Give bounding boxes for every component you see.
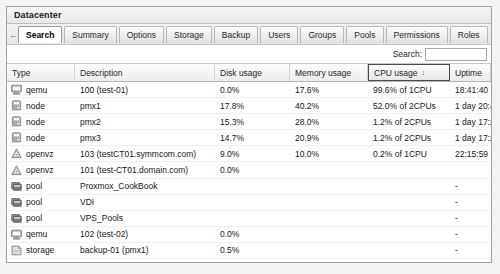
cell-desc: VDI <box>75 197 215 207</box>
column-header-mem[interactable]: Memory usage <box>290 64 368 81</box>
cell-disk: 15.3% <box>215 117 290 127</box>
datacenter-panel: Datacenter ← SearchSummaryOptionsStorage… <box>6 6 492 263</box>
pool-icon <box>11 197 22 208</box>
container-icon <box>11 165 22 176</box>
page-title: Datacenter <box>14 10 62 20</box>
tab-options[interactable]: Options <box>119 26 164 43</box>
cell-mem: 20.9% <box>290 133 368 143</box>
tab-groups[interactable]: Groups <box>300 26 344 43</box>
tab-label: Search <box>26 30 54 40</box>
cell-type-label: qemu <box>26 85 47 95</box>
cell-type-label: qemu <box>26 229 47 239</box>
panel-titlebar: Datacenter <box>7 7 491 24</box>
cell-disk: 9.0% <box>215 149 290 159</box>
table-row[interactable]: poolVDI- <box>7 195 491 211</box>
tab-label: Storage <box>174 30 204 40</box>
cell-desc: 101 (test-CT01.domain.com) <box>75 165 215 175</box>
cell-desc: Proxmox_CookBook <box>75 181 215 191</box>
sort-descending-icon: ↓ <box>421 69 425 76</box>
cell-disk: 0.0% <box>215 229 290 239</box>
column-header-cpu[interactable]: CPU usage↓ <box>368 64 450 81</box>
table-row[interactable]: poolProxmox_CookBook- <box>7 179 491 195</box>
search-bar: Search: <box>7 45 491 63</box>
cell-type-label: node <box>26 117 45 127</box>
cell-uptime: - <box>450 213 491 223</box>
pool-icon <box>11 213 22 224</box>
cell-desc: 100 (test-01) <box>75 85 215 95</box>
cell-type-label: pool <box>26 197 42 207</box>
cell-type: node <box>7 100 75 111</box>
grid-body: qemu100 (test-01)0.0%17.6%99.6% of 1CPU1… <box>7 82 491 262</box>
column-header-desc[interactable]: Description <box>75 64 215 81</box>
cell-cpu: 0.2% of 1CPU <box>368 149 450 159</box>
cell-desc: pmx1 <box>75 101 215 111</box>
pool-icon <box>11 181 22 192</box>
cell-type: storage <box>7 245 75 256</box>
cell-type-label: openvz <box>26 165 53 175</box>
cell-mem: 17.6% <box>290 85 368 95</box>
server-icon <box>11 132 22 143</box>
cell-uptime: - <box>450 197 491 207</box>
cell-mem: 10.0% <box>290 149 368 159</box>
table-row[interactable]: nodepmx117.8%40.2%52.0% of 2CPUs1 day 20… <box>7 98 491 114</box>
cell-type-label: node <box>26 101 45 111</box>
tab-search[interactable]: Search <box>18 26 62 43</box>
cell-type-label: openvz <box>26 149 53 159</box>
search-label: Search: <box>393 49 422 59</box>
tab-label: Options <box>127 30 156 40</box>
table-row[interactable]: qemu102 (test-02)0.0%- <box>7 227 491 243</box>
server-icon <box>11 116 22 127</box>
cell-desc: pmx2 <box>75 117 215 127</box>
column-header-label: Uptime <box>455 68 482 78</box>
tab-roles[interactable]: Roles <box>450 26 488 43</box>
cell-cpu: 1.2% of 2CPUs <box>368 133 450 143</box>
tab-label: Pools <box>354 30 375 40</box>
cell-disk: 14.7% <box>215 133 290 143</box>
cell-uptime: 1 day 20:41:20 <box>450 101 491 111</box>
table-row[interactable]: nodepmx314.7%20.9%1.2% of 2CPUs1 day 17:… <box>7 130 491 146</box>
cell-desc: pmx3 <box>75 133 215 143</box>
cell-disk: 0.5% <box>215 245 290 255</box>
tab-label: Summary <box>72 30 108 40</box>
monitor-icon <box>11 84 22 95</box>
table-row[interactable]: qemu100 (test-01)0.0%17.6%99.6% of 1CPU1… <box>7 82 491 98</box>
cell-type-label: storage <box>26 245 54 255</box>
table-row[interactable]: storagebackup-01 (pmx1)0.5%- <box>7 243 491 259</box>
arrow-left-icon[interactable]: ← <box>9 26 18 44</box>
table-row[interactable]: openvz101 (test-CT01.domain.com)0.0% <box>7 162 491 178</box>
tab-pools[interactable]: Pools <box>346 26 383 43</box>
tab-users[interactable]: Users <box>260 26 298 43</box>
column-header-disk[interactable]: Disk usage <box>215 64 290 81</box>
cell-type-label: pool <box>26 213 42 223</box>
cell-mem: 28.0% <box>290 117 368 127</box>
cell-type: openvz <box>7 148 75 159</box>
tab-permissions[interactable]: Permissions <box>386 26 448 43</box>
cell-desc: backup-01 (pmx1) <box>75 245 215 255</box>
table-row[interactable]: poolVPS_Pools- <box>7 211 491 227</box>
page-background: Datacenter ← SearchSummaryOptionsStorage… <box>0 0 500 274</box>
tab-backup[interactable]: Backup <box>214 26 258 43</box>
tab-storage[interactable]: Storage <box>166 26 212 43</box>
cell-type: node <box>7 116 75 127</box>
cell-uptime: 1 day 17:27:52 <box>450 117 491 127</box>
cell-cpu: 52.0% of 2CPUs <box>368 101 450 111</box>
column-header-uptime[interactable]: Uptime <box>450 64 491 81</box>
tab-bar: ← SearchSummaryOptionsStorageBackupUsers… <box>7 24 491 45</box>
cell-uptime: 22:15:59 <box>450 149 491 159</box>
tab-label: Roles <box>458 30 480 40</box>
cell-type-label: node <box>26 133 45 143</box>
cell-desc: 103 (testCT01.symmcom.com) <box>75 149 215 159</box>
column-header-type[interactable]: Type <box>7 64 75 81</box>
tab-summary[interactable]: Summary <box>64 26 116 43</box>
table-row[interactable]: nodepmx215.3%28.0%1.2% of 2CPUs1 day 17:… <box>7 114 491 130</box>
results-grid: TypeDescriptionDisk usageMemory usageCPU… <box>7 63 491 262</box>
cell-type-label: pool <box>26 181 42 191</box>
cell-uptime: - <box>450 229 491 239</box>
search-input[interactable] <box>425 48 487 61</box>
cell-cpu: 1.2% of 2CPUs <box>368 117 450 127</box>
cell-disk: 17.8% <box>215 101 290 111</box>
tab-label: Permissions <box>394 30 440 40</box>
table-row[interactable]: openvz103 (testCT01.symmcom.com)9.0%10.0… <box>7 146 491 162</box>
tab-label: Users <box>268 30 290 40</box>
column-header-label: Memory usage <box>295 68 351 78</box>
